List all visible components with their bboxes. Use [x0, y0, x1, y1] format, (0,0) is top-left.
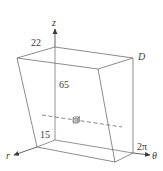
z-axis-label: z [52, 18, 56, 28]
cylindrical-region-diagram: z 22 D 65 15 2π r θ [0, 0, 163, 171]
bottom-right-edge [115, 153, 133, 162]
front-left-slanted-edge [17, 58, 37, 147]
volume-element-cube-icon [73, 117, 80, 123]
theta-max-label: 2π [137, 142, 147, 152]
r-axis-arrow [14, 147, 37, 155]
front-edges [17, 47, 133, 162]
height-label: 65 [59, 80, 69, 90]
dashed-radial-line [42, 115, 122, 127]
theta-axis-arrow [133, 153, 150, 155]
bottom-left-back-edge [37, 140, 55, 147]
front-bottom-edge [37, 147, 115, 162]
back-bottom-edge [55, 140, 133, 153]
front-right-slanted-edge [98, 69, 115, 162]
bottom-radius-label: 15 [40, 130, 50, 140]
top-radius-label: 22 [31, 38, 41, 48]
top-face-outline [17, 47, 133, 69]
region-label: D [138, 52, 145, 62]
r-axis-label: r [6, 151, 10, 161]
theta-axis-label: θ [152, 151, 157, 161]
